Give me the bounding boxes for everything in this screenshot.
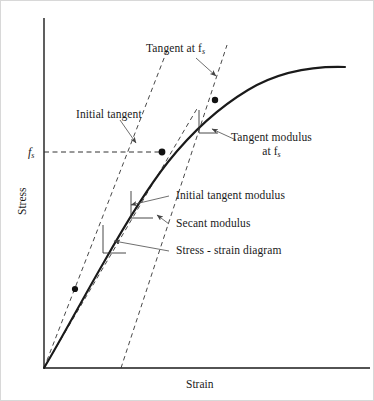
leader-initial-tangent <box>120 120 136 143</box>
annotation-tangent-modulus-subscript: s <box>278 149 281 158</box>
leader-secant-modulus <box>157 215 169 224</box>
annotation-initial-tangent-modulus-text: Initial tangent modulus <box>176 189 285 201</box>
leader-initial-tangent-modulus <box>131 196 169 205</box>
annotation-tangent-modulus-line2: at fs <box>231 145 312 159</box>
y-axis-tick-fs-subscript: s <box>31 151 34 160</box>
annotation-secant-modulus: Secant modulus <box>176 217 251 231</box>
annotation-secant-modulus-text: Secant modulus <box>176 217 251 229</box>
annotation-stress-strain-diagram: Stress - strain diagram <box>176 244 281 258</box>
y-axis-tick-fs: fs <box>28 145 34 160</box>
annotation-initial-tangent-text: Initial tangent <box>76 108 142 120</box>
stress-strain-figure: Tangent at fs Initial tangent Tangent mo… <box>0 0 374 401</box>
annotation-tangent-modulus-line1: Tangent modulus <box>231 131 312 145</box>
marked-point-lower <box>72 286 78 292</box>
x-axis-title: Strain <box>186 378 213 390</box>
annotation-tangent-at-fs-text: Tangent at f <box>146 42 202 54</box>
annotation-tangent-modulus-line2-text: at f <box>262 145 277 157</box>
leader-tangent-at-fs <box>196 58 216 76</box>
annotation-stress-strain-diagram-text: Stress - strain diagram <box>176 244 281 256</box>
marked-point-fs <box>159 149 166 156</box>
y-axis-title: Stress <box>16 188 28 215</box>
annotation-initial-tangent: Initial tangent <box>76 108 142 122</box>
annotation-tangent-at-fs: Tangent at fs <box>146 42 205 56</box>
annotation-tangent-modulus: Tangent modulus at fs <box>231 131 312 159</box>
annotation-tangent-at-fs-subscript: s <box>202 47 205 56</box>
annotation-initial-tangent-modulus: Initial tangent modulus <box>176 189 285 203</box>
initial-tangent-line <box>44 48 168 368</box>
marked-point-upper <box>212 97 218 103</box>
